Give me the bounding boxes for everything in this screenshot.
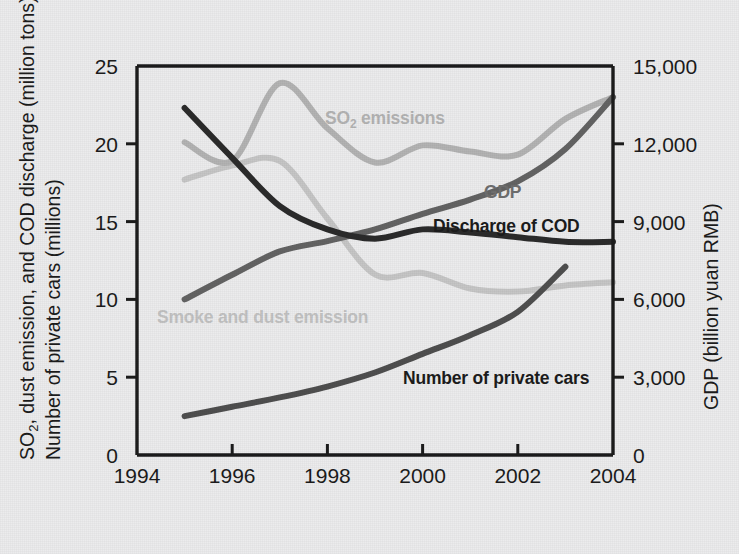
series-label-smoke: Smoke and dust emission	[157, 307, 368, 327]
left-tick-label-5: 5	[106, 366, 118, 389]
line-chart: 051015202503,0006,0009,00012,00015,00019…	[0, 0, 739, 554]
left-tick-label-25: 25	[95, 55, 118, 78]
series-label-cod: Discharge of COD	[433, 216, 580, 236]
bottom-tick-label-1998: 1998	[304, 464, 351, 487]
right-tick-label-9000: 9,000	[633, 211, 686, 234]
left-tick-label-20: 20	[95, 133, 118, 156]
chart-figure: 051015202503,0006,0009,00012,00015,00019…	[0, 0, 739, 554]
series-label-gdp: GDP	[484, 182, 522, 202]
right-axis-title: GDP (billion yuan RMB)	[700, 203, 722, 410]
right-tick-label-3000: 3,000	[633, 366, 686, 389]
svg-text:SO2, dust emission, and COD di: SO2, dust emission, and COD discharge (m…	[16, 0, 41, 460]
left-tick-label-10: 10	[95, 288, 118, 311]
bottom-tick-label-1996: 1996	[209, 464, 256, 487]
series-label-so2: SO2 emissions	[325, 108, 445, 131]
bottom-tick-label-2002: 2002	[494, 464, 541, 487]
right-tick-label-6000: 6,000	[633, 288, 686, 311]
svg-text:Number of private cars (millio: Number of private cars (millions)	[42, 179, 64, 460]
right-tick-label-12000: 12,000	[633, 133, 697, 156]
left-tick-label-15: 15	[95, 211, 118, 234]
bottom-tick-label-2004: 2004	[590, 464, 637, 487]
bottom-tick-label-1994: 1994	[114, 464, 161, 487]
bottom-tick-label-2000: 2000	[399, 464, 446, 487]
series-label-cars: Number of private cars	[403, 368, 590, 388]
right-tick-label-15000: 15,000	[633, 55, 697, 78]
